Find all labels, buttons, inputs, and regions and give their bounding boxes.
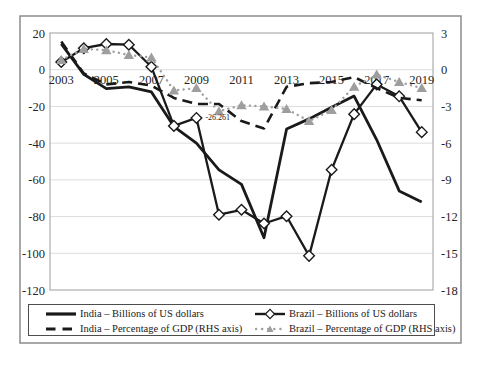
legend-item-brazil-pct: Brazil – Percentage of GDP (RHS axis) — [255, 322, 455, 336]
legend-label-india-pct: India – Percentage of GDP (RHS axis) — [80, 322, 242, 336]
legend-label-india-usd: India – Billions of US dollars — [80, 307, 204, 321]
right-axis-tick-label: -6 — [441, 137, 451, 151]
left-axis-tick-label: -40 — [28, 137, 45, 151]
legend-swatch-diamond-line-icon — [255, 308, 285, 320]
x-axis-tick-label: 2003 — [49, 73, 74, 87]
legend-item-brazil-usd: Brazil – Billions of US dollars — [255, 307, 417, 321]
right-axis-tick-label: -9 — [441, 173, 451, 187]
left-axis-tick-label: -120 — [22, 284, 45, 298]
right-axis-tick-label: 0 — [441, 63, 447, 77]
left-axis-tick-label: 20 — [33, 27, 46, 41]
chart-figure: 200-20-40-60-80-100-12030-3-6-9-12-15-18… — [0, 0, 479, 365]
legend-item-india-usd: India – Billions of US dollars — [46, 307, 204, 321]
right-axis-tick-label: -3 — [441, 100, 451, 114]
left-axis-tick-label: 0 — [39, 63, 45, 77]
right-axis-tick-label: -15 — [441, 247, 458, 261]
left-axis-tick-label: -80 — [28, 210, 45, 224]
x-axis-tick-label: 2011 — [229, 73, 254, 87]
legend-label-brazil-usd: Brazil – Billions of US dollars — [289, 307, 417, 321]
right-axis-tick-label: -18 — [441, 284, 458, 298]
left-axis-tick-label: -20 — [28, 100, 45, 114]
left-axis-tick-label: -60 — [28, 173, 45, 187]
x-axis-tick-label: 2015 — [319, 73, 344, 87]
data-label: -26.261 — [205, 113, 230, 122]
right-axis-tick-label: -12 — [441, 210, 458, 224]
left-axis-tick-label: -100 — [22, 247, 45, 261]
legend-swatch-dashed-line-icon — [46, 323, 76, 335]
right-axis-tick-label: 3 — [441, 27, 447, 41]
legend-item-india-pct: India – Percentage of GDP (RHS axis) — [46, 322, 242, 336]
legend-swatch-solid-line-icon — [46, 308, 76, 320]
legend-swatch-dotted-line-icon — [255, 323, 285, 335]
legend-label-brazil-pct: Brazil – Percentage of GDP (RHS axis) — [289, 322, 455, 336]
